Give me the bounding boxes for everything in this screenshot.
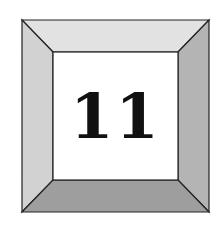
left-bevel: [22, 20, 53, 212]
right-bevel: [178, 20, 209, 212]
bottom-bevel: [22, 180, 209, 212]
top-bevel: [22, 20, 209, 52]
badge-number: 11: [53, 52, 178, 180]
